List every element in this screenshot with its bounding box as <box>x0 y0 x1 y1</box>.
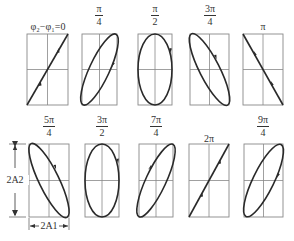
panel-label-pi-over-4: π4 <box>89 4 109 27</box>
panel-phase-pi-over-4 <box>74 30 125 109</box>
panel-label-2pi: 2π <box>197 134 221 144</box>
panel-phase-0 <box>27 34 68 105</box>
label-2A2: 2A2 <box>1 175 29 185</box>
panel-label-pi-over-2: π2 <box>145 4 165 27</box>
panel-label-pi: π <box>253 22 273 32</box>
panel-phase-pi-over-2 <box>138 34 172 105</box>
panel-phase-5pi-over-4 <box>22 139 76 221</box>
panel-phase-pi <box>243 34 283 105</box>
panel-phase-2pi <box>189 144 229 217</box>
panel-phase-3pi-over-4 <box>182 29 236 109</box>
label-2A1: 2A1 <box>39 221 59 231</box>
panel-label-7pi-over-4: 7π4 <box>144 115 168 138</box>
panel-label-0: φ₂−φ₁=0 <box>22 22 74 32</box>
panel-phase-9pi-over-4 <box>237 140 291 221</box>
panel-label-3pi-over-2: 3π2 <box>90 115 114 138</box>
panel-label-3pi-over-4: 3π4 <box>198 4 222 27</box>
panel-label-5pi-over-4: 5π4 <box>37 115 61 138</box>
panel-phase-7pi-over-4 <box>130 140 182 221</box>
panel-phase-3pi-over-2 <box>85 144 119 217</box>
panel-label-9pi-over-4: 9π4 <box>251 115 275 138</box>
